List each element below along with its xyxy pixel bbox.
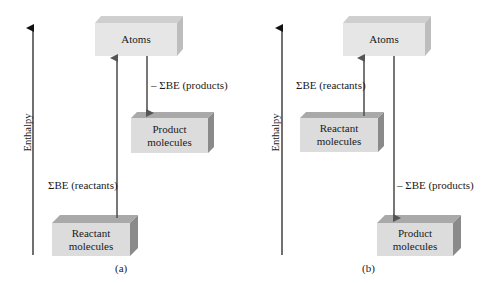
panel-b-caption: (b) (362, 262, 375, 274)
product-box-label: Product molecules (377, 223, 453, 256)
up-arrow-label: ΣBE (reactants) (48, 179, 118, 191)
reactant-text-line1: Reactant (320, 122, 358, 135)
up-arrow-label: ΣBE (reactants) (296, 79, 366, 91)
product-text-line1: Product (152, 123, 186, 136)
down-arrow-label: – ΣBE (products) (151, 79, 228, 91)
product-box-label: Product molecules (131, 118, 208, 153)
reactant-text-line2: molecules (69, 240, 114, 253)
atoms-text: Atoms (121, 33, 150, 46)
enthalpy-axis-label: Enthalpy (22, 110, 33, 156)
down-arrow-label: – ΣBE (products) (397, 179, 474, 191)
product-text-line1: Product (398, 227, 432, 240)
atoms-box-label: Atoms (95, 23, 177, 56)
atoms-box-label: Atoms (343, 23, 425, 56)
atoms-text: Atoms (369, 33, 398, 46)
reactant-text-line1: Reactant (72, 227, 110, 240)
product-text-line2: molecules (147, 136, 192, 149)
reactant-box-label: Reactant molecules (52, 223, 130, 256)
reactant-text-line2: molecules (317, 135, 362, 148)
panel-a-caption: (a) (115, 262, 127, 274)
enthalpy-axis-label: Enthalpy (270, 110, 281, 156)
product-text-line2: molecules (393, 240, 438, 253)
reactant-box-label: Reactant molecules (300, 118, 378, 152)
